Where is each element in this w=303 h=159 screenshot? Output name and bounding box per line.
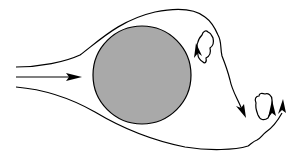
cylinder <box>93 26 191 124</box>
flow-diagram <box>0 0 303 159</box>
